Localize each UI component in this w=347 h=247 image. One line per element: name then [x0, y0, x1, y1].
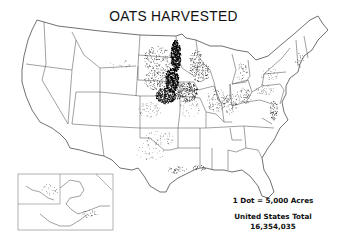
state-boundaries: [26, 22, 308, 170]
oats-dot-layer: [42, 40, 304, 218]
legend-total-value: 16,354,035: [228, 222, 318, 231]
map-figure: OATS HARVESTED: [0, 0, 347, 247]
us-map-canvas: [0, 0, 347, 247]
legend-dot-scale: 1 Dot = 5,000 Acres: [228, 196, 318, 205]
alaska-inset: [18, 174, 113, 230]
legend-total-label: United States Total: [228, 212, 318, 221]
